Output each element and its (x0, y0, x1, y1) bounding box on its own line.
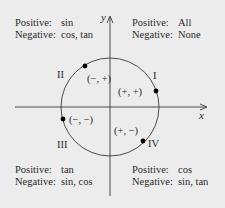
positive-label: Positive: (132, 164, 178, 176)
sign-pair-2: (−, +) (87, 73, 112, 85)
point-quadrant-4 (141, 139, 146, 144)
negative-functions: sin, tan (178, 176, 208, 188)
positive-functions: All (178, 17, 191, 29)
sign-pair-1: (+, +) (118, 86, 143, 98)
quadrant-2-info: Positive:sin Negative:cos, tan (15, 17, 93, 41)
sign-pair-3: (−, −) (69, 114, 94, 126)
negative-label: Negative: (15, 176, 61, 188)
point-quadrant-1 (154, 89, 159, 94)
negative-label: Negative: (132, 29, 178, 41)
quadrant-numeral-2: II (57, 69, 64, 80)
quadrant-numeral-1: I (153, 70, 157, 81)
negative-functions: cos, tan (61, 29, 93, 41)
negative-functions: sin, cos (61, 176, 93, 188)
y-axis-label: y (100, 11, 106, 23)
quadrant-4-info: Positive:cos Negative:sin, tan (132, 164, 208, 188)
negative-label: Negative: (15, 29, 61, 41)
positive-functions: cos (178, 164, 192, 176)
point-quadrant-3 (61, 117, 66, 122)
quadrant-1-info: Positive:All Negative:None (132, 17, 201, 41)
quadrant-numeral-4: IV (148, 138, 159, 149)
positive-functions: sin (61, 17, 73, 29)
sign-pair-4: (+, −) (114, 125, 139, 137)
quadrant-3-info: Positive:tan Negative:sin, cos (15, 164, 93, 188)
positive-functions: tan (61, 164, 74, 176)
quadrant-numeral-3: III (57, 139, 68, 150)
x-axis-label: x (198, 109, 204, 121)
point-quadrant-2 (83, 64, 88, 69)
positive-label: Positive: (15, 17, 61, 29)
negative-label: Negative: (132, 176, 178, 188)
negative-functions: None (178, 29, 201, 41)
quadrant-diagram: y x I II III IV (+, +) (−, +) (−, −) (+,… (0, 0, 225, 208)
positive-label: Positive: (132, 17, 178, 29)
positive-label: Positive: (15, 164, 61, 176)
